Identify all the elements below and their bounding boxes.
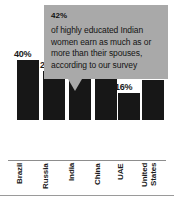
bar-value-brazil: 40% — [14, 49, 44, 59]
chart-figure: 40% 29% 42% 39% 16% 25% Brazil Russ — [0, 0, 174, 202]
bar-united-states — [142, 80, 164, 120]
bar-uae — [118, 93, 140, 120]
bar-value-uae: 16% — [115, 82, 145, 92]
callout-tail-pointer — [68, 79, 82, 91]
callout-headline: 42% — [51, 11, 162, 21]
callout-body-text: of highly educated Indian women earn as … — [51, 25, 162, 71]
bottom-divider — [0, 195, 174, 196]
x-axis-line — [8, 160, 166, 161]
callout-box: 42% of highly educated Indian women earn… — [44, 5, 168, 79]
bar-brazil — [17, 60, 39, 120]
x-axis-label-united-states: United States — [140, 163, 174, 199]
